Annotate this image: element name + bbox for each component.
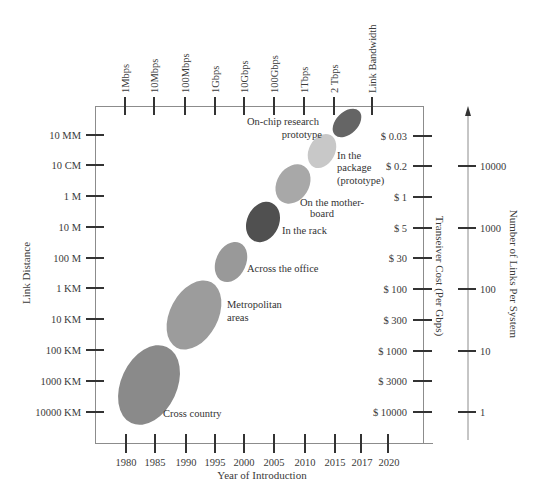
year-label: 2005: [264, 457, 285, 468]
left-axis-title: Link Distance: [20, 242, 32, 304]
region-in-the-rack: [240, 196, 287, 248]
top-axis-title: Link Bandwidth: [367, 24, 378, 93]
left-tick-label: 1 KM: [56, 283, 81, 294]
top-tick-label: 1Tbps: [299, 67, 310, 93]
year-label: 1985: [145, 457, 166, 468]
region-label-across-the-office: Across the office: [247, 263, 319, 274]
links-tick-label: 100: [480, 284, 496, 295]
left-tick-label: 1 M: [64, 191, 82, 202]
top-tick-label: 10Mbps: [149, 59, 160, 93]
top-tick-label: 10Gbps: [239, 60, 250, 93]
region-label-metropolitan-line1: Metropolitan: [227, 299, 283, 310]
right-axis-links: 10000 1000 100 10 1 Number of Links Per …: [458, 106, 520, 440]
region-label-on-chip-line1: On-chip research: [247, 116, 320, 127]
cost-tick-label: $ 1000: [378, 346, 407, 357]
region-cross-country: [106, 335, 192, 435]
cost-tick-label: $ 30: [389, 253, 407, 264]
bottom-axis: 1980 1985 1990 1995 2000 2005 2010 2015 …: [116, 434, 400, 481]
cost-tick-label: $ 0.2: [386, 161, 407, 172]
regions: [106, 103, 367, 435]
cost-tick-label: $ 5: [394, 223, 407, 234]
year-label: 1990: [176, 457, 197, 468]
left-tick-label: 100 M: [53, 253, 81, 264]
left-tick-label: 10 M: [59, 222, 82, 233]
region-label-cross-country: Cross country: [163, 408, 222, 419]
top-tick-label: 2 Tbps: [329, 64, 340, 93]
left-tick-label: 1000 KM: [40, 376, 81, 387]
technology-evolution-chart: Cross country Metropolitan areas Across …: [0, 0, 541, 498]
links-tick-label: 10000: [480, 161, 506, 172]
left-axis: 10 MM 10 CM 1 M 10 M 100 M 1 KM 10 KM 10…: [20, 130, 104, 418]
year-label: 2017: [352, 457, 373, 468]
region-labels: Cross country Metropolitan areas Across …: [163, 116, 385, 419]
cost-tick-label: $ 100: [383, 284, 407, 295]
cost-tick-label: $ 10000: [373, 407, 407, 418]
region-label-package-line2: package: [337, 162, 372, 173]
region-label-in-the-rack: In the rack: [282, 225, 328, 236]
year-label: 1980: [116, 457, 137, 468]
region-across-the-office: [209, 237, 254, 288]
region-metropolitan-areas: [155, 271, 232, 359]
left-tick-label: 10 MM: [49, 130, 81, 141]
region-label-package-line3: (prototype): [337, 175, 385, 187]
cost-axis-title: Transeiver Cost (Per Gbps): [433, 216, 446, 337]
links-tick-label: 1: [480, 407, 485, 418]
left-tick-label: 100 KM: [46, 345, 82, 356]
year-label: 2010: [295, 457, 316, 468]
top-tick-label: 1Gbps: [210, 66, 221, 93]
arrow-up-icon: [465, 106, 471, 116]
top-tick-label: 1Mbps: [120, 64, 131, 93]
cost-tick-label: $ 3000: [378, 376, 407, 387]
top-tick-label: 100Mbps: [180, 53, 191, 93]
year-label: 2000: [234, 457, 255, 468]
region-label-package-line1: In the: [337, 150, 362, 161]
links-axis-title: Number of Links Per System: [508, 210, 520, 339]
left-tick-label: 10 CM: [52, 160, 82, 171]
year-label: 2020: [379, 457, 400, 468]
region-label-motherboard-line1: On the mother-: [300, 197, 364, 208]
region-label-on-chip-line2: prototype: [282, 129, 323, 140]
left-tick-label: 10000 KM: [35, 407, 81, 418]
left-tick-label: 10 KM: [51, 314, 82, 325]
cost-tick-label: $ 300: [383, 315, 407, 326]
top-tick-label: 100Gbps: [269, 55, 280, 93]
year-label: 1995: [205, 457, 226, 468]
year-label: 2015: [325, 457, 346, 468]
links-tick-label: 10: [480, 346, 491, 357]
x-axis-title: Year of Introduction: [217, 469, 307, 481]
top-axis: 1Mbps 10Mbps 100Mbps 1Gbps 10Gbps 100Gbp…: [120, 24, 378, 115]
region-label-metropolitan-line2: areas: [227, 312, 249, 323]
cost-tick-label: $ 0.03: [381, 131, 407, 142]
links-tick-label: 1000: [480, 223, 501, 234]
region-label-motherboard-line2: board: [310, 208, 335, 219]
cost-tick-label: $ 1: [394, 192, 407, 203]
